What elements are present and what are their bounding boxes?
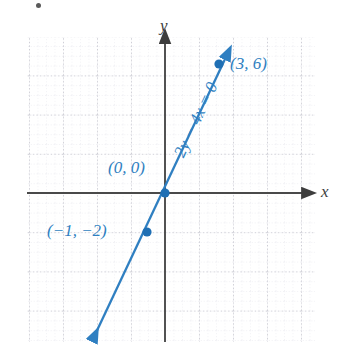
point-0-0 bbox=[160, 188, 169, 197]
point-3-6 bbox=[214, 59, 223, 68]
point-label-3-6: (3, 6) bbox=[230, 54, 267, 74]
grid-major bbox=[27, 37, 315, 342]
point-label-0-0: (0, 0) bbox=[108, 158, 145, 178]
y-axis-label: y bbox=[160, 16, 168, 36]
graph-figure: (3, 6) (0, 0) (−1, −2) 2y − 4x = 0 x y bbox=[0, 0, 342, 357]
coordinate-plane bbox=[0, 0, 342, 357]
point-label-neg1-neg2: (−1, −2) bbox=[47, 221, 107, 241]
x-axis-label: x bbox=[321, 182, 329, 202]
point-neg1-neg2 bbox=[142, 227, 151, 236]
